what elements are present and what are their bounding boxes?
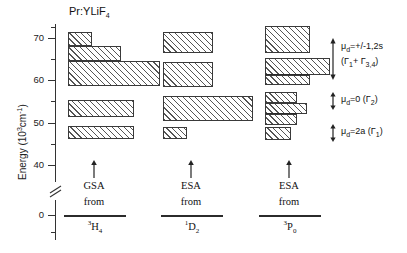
y-tick-40 — [48, 165, 55, 166]
col-esa2-term: 3P0 — [259, 219, 321, 235]
y-axis-title: Energy (103cm-1) — [16, 104, 28, 180]
axis-break-icon — [49, 182, 63, 200]
band-esa1-2 — [163, 62, 213, 87]
annot-2a-line1: μd=2a (Γ1) — [341, 126, 383, 140]
y-tick-50 — [48, 123, 55, 124]
col-gsa-term-sub: 4 — [99, 227, 103, 235]
band-gsa-1 — [68, 32, 92, 46]
band-esa1-4 — [163, 127, 187, 139]
esa2-up-arrow-icon — [284, 160, 294, 182]
annot-pm12s-double-arrow-icon — [328, 38, 338, 80]
col-esa1-baseline — [161, 215, 223, 217]
annot-zero-line1: μd=0 (Γ2) — [341, 94, 378, 108]
band-esa2-divider-upper — [266, 74, 309, 75]
y-axis-title-exp: 3 — [16, 127, 23, 131]
y-tick-label-0: 0 — [18, 210, 44, 219]
band-esa2-3 — [265, 75, 310, 85]
col-esa1-term: 1D2 — [161, 219, 223, 235]
y-axis-title-unit-exp: -1 — [16, 108, 23, 114]
col-esa2-baseline — [259, 215, 321, 217]
y-tick-60 — [48, 80, 55, 81]
band-gsa-4 — [68, 100, 134, 117]
figure-title: Pr:YLiF4 — [69, 5, 110, 19]
col-gsa-term-letter: H — [91, 221, 99, 232]
figure-root: 70 60 50 40 0 Energy (103cm-1) Pr:YLiF4 … — [0, 0, 407, 253]
y-tick-minor-75 — [51, 27, 55, 28]
annot-2a-close: ) — [380, 126, 383, 136]
col-gsa-term: 3H4 — [64, 219, 126, 235]
y-tick-0 — [48, 215, 55, 216]
annot-pm12s-close: ) — [375, 56, 378, 66]
annot-pm12s-value: =+/-1,2s — [350, 41, 383, 51]
col-esa2-from: from — [259, 196, 319, 207]
col-gsa-transition: GSA — [64, 180, 124, 191]
annot-pm12s-line2: (Γ1+ Γ3,4) — [341, 56, 378, 70]
col-esa1-from: from — [161, 196, 221, 207]
y-tick-label-60: 60 — [18, 75, 44, 84]
annot-zero-value: =0 ( — [350, 94, 366, 104]
y-axis-title-main: Energy (10 — [17, 131, 28, 180]
band-esa2-6 — [265, 114, 297, 125]
y-tick-70 — [48, 38, 55, 39]
y-tick-minor-55 — [51, 101, 55, 102]
y-tick-minor-65 — [51, 59, 55, 60]
y-tick-minor-45 — [51, 144, 55, 145]
band-esa2-1 — [265, 26, 310, 53]
annot-2a-value: =2a ( — [350, 126, 371, 136]
y-tick-minor-low — [51, 232, 55, 233]
annot-zero-double-arrow-icon — [328, 92, 338, 110]
band-esa1-3 — [163, 96, 253, 121]
y-axis-line — [55, 24, 56, 240]
band-esa1-1 — [163, 32, 213, 53]
col-gsa-baseline — [64, 215, 126, 217]
band-gsa-3 — [68, 61, 160, 86]
y-tick-label-70: 70 — [18, 33, 44, 42]
annot-zero-close: ) — [375, 94, 378, 104]
band-esa2-divider-lower — [266, 113, 297, 114]
band-esa2-2 — [265, 58, 330, 75]
annot-pm12s-line1: μd=+/-1,2s — [341, 41, 383, 55]
figure-title-sub: 4 — [106, 12, 110, 19]
y-axis-title-close: ) — [17, 104, 28, 107]
col-esa1-transition: ESA — [161, 180, 221, 191]
esa1-up-arrow-icon — [186, 160, 196, 182]
col-esa2-transition: ESA — [259, 180, 319, 191]
annot-2a-double-arrow-icon — [328, 124, 338, 142]
annot-pm12s-plus: + — [353, 56, 361, 66]
col-gsa-from: from — [64, 196, 124, 207]
band-gsa-5 — [68, 126, 134, 139]
band-gsa-2 — [68, 46, 121, 61]
col-esa1-term-sub: 2 — [196, 227, 200, 235]
figure-title-base: Pr:YLiF — [69, 5, 106, 17]
y-axis-title-unit: cm — [17, 114, 28, 127]
col-esa1-term-letter: D — [188, 221, 196, 232]
band-esa2-7 — [265, 127, 291, 140]
band-esa2-4 — [265, 92, 297, 103]
annot-pm12s-gamma2-sub: 3,4 — [366, 61, 376, 68]
col-esa2-term-sub: 0 — [293, 227, 297, 235]
gsa-up-arrow-icon — [89, 160, 99, 182]
